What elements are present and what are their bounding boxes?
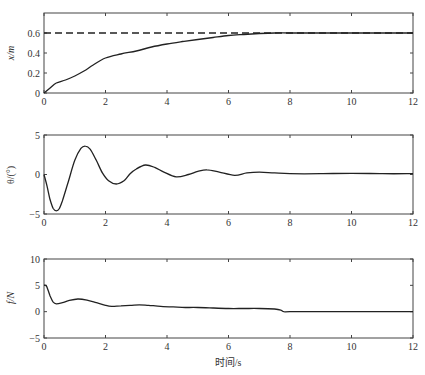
x-tick-label: 12 bbox=[408, 217, 418, 228]
theta-line bbox=[44, 146, 413, 211]
x-tick-label: 4 bbox=[165, 217, 170, 228]
angle-ylabel: θ/(°) bbox=[5, 166, 17, 184]
y-tick-label: 0 bbox=[35, 169, 40, 180]
y-tick-label: −5 bbox=[29, 333, 40, 344]
y-tick-label: 5 bbox=[35, 130, 40, 141]
x-tick-label: 0 bbox=[42, 217, 47, 228]
x-tick-label: 0 bbox=[42, 341, 47, 352]
x-tick-label: 4 bbox=[165, 341, 170, 352]
x-tick-label: 6 bbox=[226, 217, 231, 228]
position-subplot: 02468101200.20.40.6 bbox=[28, 13, 419, 107]
figure: 02468101200.20.40.6 024681012−505 024681… bbox=[0, 0, 425, 375]
force-ylabel: f/N bbox=[5, 291, 16, 305]
y-tick-label: 0.4 bbox=[28, 48, 41, 59]
x-tick-label: 0 bbox=[42, 96, 47, 107]
x-tick-label: 8 bbox=[288, 96, 293, 107]
plot-frame bbox=[44, 259, 413, 338]
x-tick-label: 8 bbox=[288, 217, 293, 228]
position-ylabel: x/m bbox=[5, 46, 16, 61]
x-tick-label: 4 bbox=[165, 96, 170, 107]
x-tick-label: 2 bbox=[103, 96, 108, 107]
x-tick-label: 10 bbox=[347, 341, 357, 352]
x-tick-label: 10 bbox=[347, 96, 357, 107]
y-tick-label: 5 bbox=[35, 280, 40, 291]
x-tick-label: 2 bbox=[103, 217, 108, 228]
x-tick-label: 10 bbox=[347, 217, 357, 228]
f-line bbox=[44, 285, 413, 312]
x-tick-label: 2 bbox=[103, 341, 108, 352]
x-tick-label: 6 bbox=[226, 96, 231, 107]
y-tick-label: 0.6 bbox=[28, 28, 41, 39]
y-tick-label: −5 bbox=[29, 209, 40, 220]
x-tick-label: 6 bbox=[226, 341, 231, 352]
y-tick-label: 10 bbox=[30, 254, 40, 265]
angle-subplot: 024681012−505 bbox=[29, 130, 418, 229]
y-tick-label: 0 bbox=[35, 306, 40, 317]
x-tick-label: 12 bbox=[408, 341, 418, 352]
x-line bbox=[44, 33, 413, 93]
force-subplot: 024681012−50510 bbox=[29, 254, 418, 353]
y-tick-label: 0.2 bbox=[28, 68, 41, 79]
plot-frame bbox=[44, 13, 413, 93]
y-tick-label: 0 bbox=[35, 88, 40, 99]
x-tick-label: 12 bbox=[408, 96, 418, 107]
x-tick-label: 8 bbox=[288, 341, 293, 352]
x-axis-label: 时间/s bbox=[215, 356, 242, 368]
